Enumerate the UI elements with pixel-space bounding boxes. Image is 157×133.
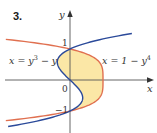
x-axis-arrow-icon xyxy=(147,77,154,82)
y-tick-1-label: 1 xyxy=(62,38,68,48)
equation-label-orange: x = 1 − y4 xyxy=(102,54,151,66)
y-tick-neg1-label: −1 xyxy=(55,105,68,115)
y-axis-label: y xyxy=(58,9,65,20)
x-axis-label: x xyxy=(147,83,153,94)
y-axis-arrow-icon xyxy=(67,10,72,17)
origin-label: 0 xyxy=(62,84,68,94)
problem-number: 3. xyxy=(13,10,22,22)
equation-label-blue: x = y3 − y xyxy=(9,54,58,66)
region-diagram: 3. y x 0 1 −1 x = y3 − y x = 1 − y4 xyxy=(0,0,157,133)
